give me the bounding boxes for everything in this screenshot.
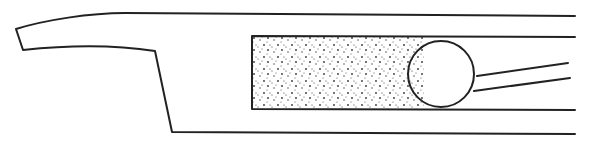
figure-drawing (0, 0, 590, 144)
upper-line (477, 63, 568, 76)
stippled-insert (252, 36, 575, 110)
lower-line (474, 78, 570, 91)
